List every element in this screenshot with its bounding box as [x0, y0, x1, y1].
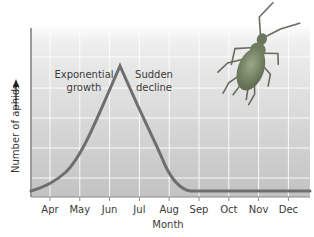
x-tick-labels: AprMayJunJulAugSepOctNovDec: [41, 204, 298, 215]
annotation-decline-line1: Sudden: [135, 69, 173, 80]
annotation-exponential-line1: Exponential: [54, 69, 113, 80]
aphid-population-chart: Exponential growth Sudden decline AprMay…: [0, 0, 314, 237]
y-axis-title-group: Number of aphids: [10, 79, 21, 173]
x-tick-label-may: May: [69, 204, 90, 215]
x-tick-label-aug: Aug: [159, 204, 179, 215]
x-tick-label-nov: Nov: [249, 204, 269, 215]
x-tick-label-jul: Jul: [132, 204, 145, 215]
annotation-decline-line2: decline: [136, 82, 172, 93]
x-ticks: [50, 197, 288, 201]
x-tick-label-oct: Oct: [220, 204, 237, 215]
x-tick-label-sep: Sep: [190, 204, 209, 215]
x-tick-label-dec: Dec: [279, 204, 298, 215]
annotation-exponential-line2: growth: [67, 82, 102, 93]
x-axis-title: Month: [152, 219, 183, 230]
x-tick-label-apr: Apr: [41, 204, 59, 215]
x-tick-label-jun: Jun: [101, 204, 118, 215]
arrowhead-icon: [13, 79, 19, 87]
